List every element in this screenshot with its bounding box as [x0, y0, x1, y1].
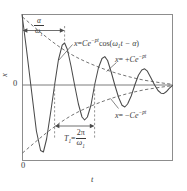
- x-axis-label: t: [91, 175, 93, 184]
- damped-oscillation-figure: α ω1 x=Ce−ptcos(ω1t − α) x= +Ce−pt x= −C…: [0, 0, 187, 191]
- plot-canvas: [0, 0, 187, 191]
- period-denominator: ω1: [76, 139, 86, 149]
- phase-shift-arrow-right: [60, 28, 65, 32]
- main-eq-amplitude: Ce: [82, 39, 91, 48]
- origin-label: 0: [21, 161, 25, 170]
- period-fraction: 2πω1: [76, 129, 86, 149]
- main-eq-cos: cos(: [99, 39, 112, 48]
- lower-envelope-curve: [23, 86, 173, 153]
- y-axis-label: x: [0, 73, 9, 77]
- phase-shift-label: α ω1: [34, 17, 44, 37]
- phase-shift-denominator: ω1: [34, 26, 44, 37]
- period-arrow-left: [55, 124, 60, 128]
- main-eq-close: ): [136, 39, 139, 48]
- lower-env-exponent: −pt: [138, 109, 146, 115]
- upper-env-exponent: −pt: [138, 53, 146, 59]
- upper-envelope-leader: [107, 63, 117, 72]
- y-axis-zero-tick: 0: [13, 79, 17, 88]
- phase-shift-arrow-left: [23, 28, 28, 32]
- period-arrow-right: [90, 124, 95, 128]
- main-equation-label: x=Ce−ptcos(ω1t − α): [74, 38, 139, 50]
- lower-env-equals: = −: [119, 111, 130, 120]
- period-label: T1=2πω1: [64, 129, 86, 149]
- main-eq-exponent: −pt: [91, 37, 99, 43]
- upper-envelope-label: x= +Ce−pt: [115, 54, 146, 64]
- upper-env-equals: = +: [119, 55, 130, 64]
- phase-shift-fraction: α ω1: [34, 17, 44, 37]
- main-eq-arg: t −: [121, 39, 133, 48]
- lower-envelope-label: x= −Ce−pt: [115, 110, 146, 120]
- lower-envelope-leader: [111, 99, 119, 109]
